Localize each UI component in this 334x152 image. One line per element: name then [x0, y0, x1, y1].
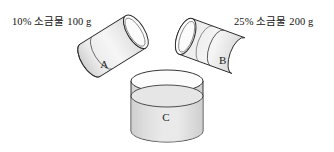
vessel-b-letter: B — [219, 54, 226, 66]
vessels-illustration: A B C — [0, 0, 334, 152]
vessel-a-letter: A — [100, 58, 108, 70]
diagram-canvas: 10% 소금물 100 g 25% 소금물 200 g — [0, 0, 334, 152]
vessel-c-letter: C — [162, 111, 169, 123]
vessel-b: B — [171, 16, 245, 74]
vessel-a: A — [73, 11, 153, 81]
vessel-c-liquid-surface — [131, 85, 203, 107]
vessel-c: C — [131, 70, 203, 142]
